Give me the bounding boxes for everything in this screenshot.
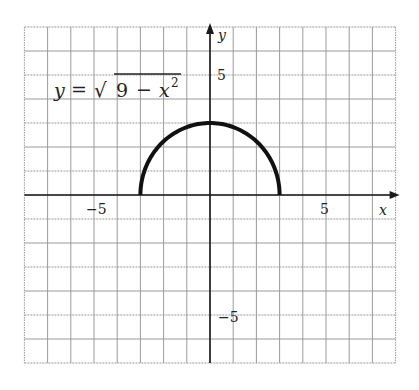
svg-text:y: y (53, 79, 65, 101)
y-tick-5: 5 (217, 67, 226, 83)
semicircle-graph: y x −5 5 5 −5 y = √ 9 − x 2 (0, 0, 419, 390)
equation-label: y = √ 9 − x 2 (53, 74, 181, 102)
svg-text:−: − (136, 78, 152, 100)
x-axis-label: x (379, 202, 387, 218)
x-tick-5: 5 (320, 201, 329, 217)
x-tick-neg5: −5 (86, 201, 107, 217)
svg-text:x: x (159, 79, 170, 101)
svg-text:=: = (71, 78, 87, 100)
axes (24, 23, 399, 363)
svg-text:9: 9 (116, 79, 128, 101)
svg-text:√: √ (94, 78, 107, 102)
y-tick-neg5: −5 (218, 309, 239, 325)
svg-text:2: 2 (171, 76, 179, 90)
y-axis-label: y (217, 27, 227, 43)
